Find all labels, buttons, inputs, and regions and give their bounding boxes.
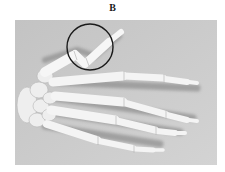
hand-skeleton-photo (15, 20, 217, 165)
hand-skeleton-illustration (15, 20, 217, 165)
figure-label: B (0, 2, 225, 14)
